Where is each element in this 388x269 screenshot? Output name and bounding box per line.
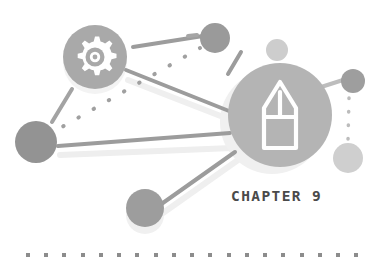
bottom-dot	[26, 253, 30, 257]
shadow-pencil-to-bottom	[163, 160, 238, 213]
node-top-mid[interactable]	[200, 23, 230, 53]
bottom-dot	[154, 253, 158, 257]
node-right-upper[interactable]	[341, 69, 365, 93]
link-stub-left-of-top-mid[interactable]	[188, 35, 197, 36]
bottom-dot	[245, 253, 249, 257]
bottom-dot	[318, 253, 322, 257]
chapter-illustration: CHAPTER 9	[0, 0, 388, 269]
bottom-dot	[172, 253, 176, 257]
bottom-dot	[81, 253, 85, 257]
bottom-dot	[62, 253, 66, 257]
link-pencil-to-bottom[interactable]	[160, 152, 235, 205]
bottom-dot	[135, 253, 139, 257]
bottom-dot	[44, 253, 48, 257]
bottom-dot	[117, 253, 121, 257]
node-bottom[interactable]	[126, 189, 164, 227]
node-left[interactable]	[15, 121, 57, 163]
bottom-dot	[227, 253, 231, 257]
bottom-dot	[208, 253, 212, 257]
link-right-upper-to-right-lower[interactable]	[348, 98, 349, 140]
gear-icon	[78, 37, 117, 76]
node-right-lower[interactable]	[333, 143, 363, 173]
link-left-to-pencil[interactable]	[58, 133, 230, 146]
shadow-left-to-pencil	[60, 148, 232, 155]
gear-icon-badge[interactable]	[63, 25, 127, 89]
node-top-right[interactable]	[266, 39, 288, 61]
link-short-above-pencil[interactable]	[228, 52, 241, 74]
link-gear-to-pencil[interactable]	[126, 70, 234, 113]
bottom-dot	[281, 253, 285, 257]
link-gear-to-top-mid[interactable]	[133, 36, 203, 47]
bottom-dot	[99, 253, 103, 257]
chapter-title: CHAPTER 9	[231, 186, 326, 206]
shadow-gear-to-pencil	[128, 80, 236, 122]
bottom-dot	[263, 253, 267, 257]
bottom-dot	[336, 253, 340, 257]
bottom-dot-row	[26, 253, 358, 257]
link-short-upper-left[interactable]	[52, 89, 72, 122]
bottom-dot	[354, 253, 358, 257]
bottom-dot	[190, 253, 194, 257]
bottom-dot	[300, 253, 304, 257]
connection-network-graphic	[0, 0, 388, 269]
pencil-icon-badge[interactable]	[228, 63, 332, 167]
